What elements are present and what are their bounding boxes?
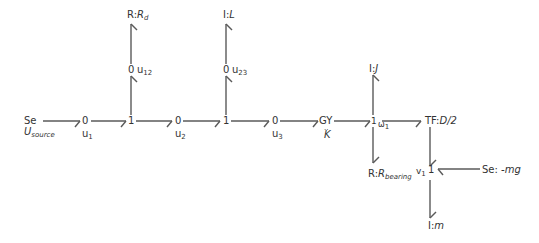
bond-1b-to-0u23: [226, 76, 232, 115]
junction-0-u23: 0: [223, 64, 229, 75]
junction-0-u2: 0: [175, 115, 181, 126]
bond-graph-diagram: Se Usource 0 u1 1 0 u12 R:Rd 0 u2 1 0 u2…: [0, 0, 539, 243]
se-mg-label: Se: -mg: [482, 164, 521, 175]
bond-0u2-to-1b: [183, 121, 220, 127]
transformer-label: TF:D/2: [424, 115, 457, 126]
junction-1-b: 1: [223, 115, 229, 126]
bond-tf-to-1v1: [430, 127, 436, 166]
se-source-label: Se: [24, 115, 37, 126]
junction-0-u12-var: u12: [137, 64, 152, 77]
bond-1b-to-0u3: [231, 121, 269, 127]
i-l-label: I:L: [223, 9, 235, 20]
bond-1w1-to-rbearing: [373, 127, 379, 163]
r-bearing-label: R:Rbearing: [368, 168, 412, 181]
bond-1a-to-0u2: [136, 121, 172, 127]
bond-0u3-to-gy: [280, 121, 318, 127]
gyrator-param: K: [324, 129, 332, 140]
junction-0-u1: 0: [82, 115, 88, 126]
bond-semg-to-1v1: [438, 169, 480, 175]
bond-0u1-to-1a: [91, 121, 126, 127]
bond-0u12-to-rd: [131, 24, 137, 64]
junction-1-a: 1: [128, 115, 134, 126]
bond-0u23-to-il: [226, 24, 232, 64]
junction-1-v1: 1: [428, 164, 434, 175]
junction-0-u2-var: u2: [175, 128, 186, 141]
bond-1w1-to-ij: [373, 75, 379, 115]
i-j-label: I:J: [369, 63, 378, 74]
junction-0-u1-var: u1: [82, 128, 93, 141]
junction-0-u3: 0: [272, 115, 278, 126]
junction-1-v1-var: v1: [416, 166, 426, 178]
bond-1a-to-0u12: [131, 76, 137, 115]
bond-se-to-0u1: [43, 121, 80, 127]
bond-gy-to-1w1: [334, 121, 370, 127]
junction-0-u23-var: u23: [232, 64, 247, 77]
bond-1v1-to-im: [430, 180, 436, 218]
r-d-label: R:Rd: [127, 9, 149, 22]
i-m-label: I:m: [428, 220, 444, 231]
u-source-label: Usource: [24, 126, 55, 139]
junction-1-w1: 1: [371, 116, 377, 126]
junction-0-u3-var: u3: [272, 128, 283, 141]
junction-0-u12: 0: [128, 64, 134, 75]
